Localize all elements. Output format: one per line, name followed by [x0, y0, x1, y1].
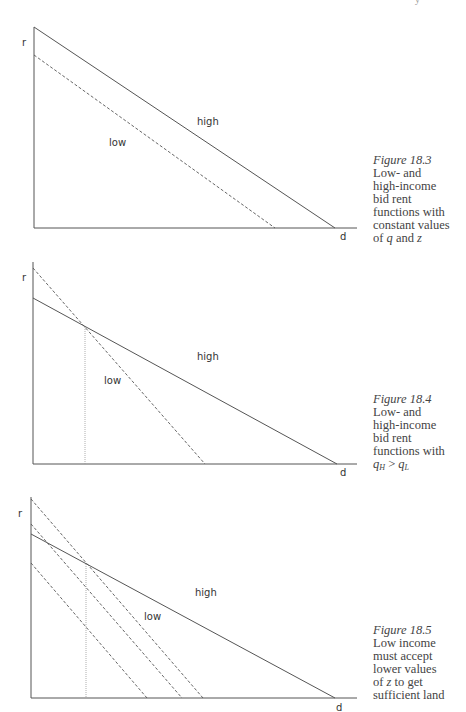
- fig3-high-label: high: [195, 588, 217, 598]
- fig3-low-label: low: [144, 612, 161, 622]
- fig1-low-label: low: [109, 138, 126, 148]
- fig2-x-axis-label: d: [340, 468, 346, 478]
- fig1-x-axis-label: d: [340, 232, 346, 242]
- fig2-low-label: low: [104, 376, 121, 386]
- fig3-high-curve: [31, 534, 335, 698]
- caption-text: and: [393, 231, 417, 245]
- caption-sub-l: L: [405, 463, 409, 472]
- caption-line: sufficient land: [373, 689, 466, 702]
- fig1-caption: Figure 18.3 Low- and high-income bid ren…: [373, 154, 466, 245]
- caption-text: to get: [391, 675, 422, 689]
- fig2-caption: Figure 18.4 Low- and high-income bid ren…: [373, 393, 466, 474]
- fig1-high-label: high: [197, 117, 219, 127]
- fig2-high-curve: [33, 298, 337, 464]
- fig3-low-curve-1: [31, 499, 203, 698]
- caption-text: of: [373, 675, 387, 689]
- fig3-low-curve-3: [31, 563, 147, 698]
- fig2-y-axis-label: r: [22, 273, 26, 283]
- fig2-low-curve: [33, 268, 205, 464]
- fig1-low-curve: [34, 55, 275, 228]
- fig3-y-axis-label: r: [18, 509, 22, 519]
- fig3-caption: Figure 18.5 Low income must accept lower…: [373, 624, 466, 702]
- caption-condition: qH > qL: [373, 458, 466, 474]
- figures-canvas: [0, 0, 466, 712]
- fig1-y-axis-label: r: [22, 38, 26, 48]
- caption-operator: >: [385, 457, 398, 471]
- caption-var-z: z: [417, 231, 422, 245]
- fig3-x-axis-label: d: [336, 703, 342, 712]
- caption-line-last: of q and z: [373, 232, 466, 245]
- fig2-high-label: high: [197, 352, 219, 362]
- caption-text: of: [373, 231, 387, 245]
- fig1-high-curve: [34, 27, 335, 228]
